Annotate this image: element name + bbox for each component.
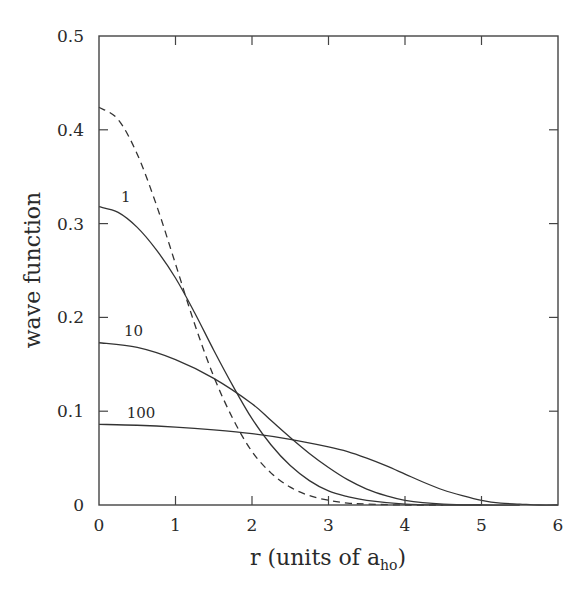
y-tick-labels: 00.10.20.30.40.5 — [57, 26, 84, 515]
y-tick-label: 0 — [73, 495, 84, 515]
x-tick-label: 0 — [94, 515, 105, 535]
x-tick-labels: 0123456 — [94, 515, 564, 535]
y-axis-title: wave function — [20, 192, 45, 348]
wave-function-chart: 0123456 00.10.20.30.40.5 110100 r (units… — [0, 0, 587, 601]
curve-label-10: 10 — [124, 322, 143, 340]
curve-1 — [99, 207, 482, 505]
curves-layer — [99, 107, 558, 505]
curve-100 — [99, 424, 558, 505]
plot-frame — [99, 36, 558, 505]
y-tick-label: 0.5 — [57, 26, 84, 46]
ticks-layer — [99, 36, 558, 505]
curve-label-100: 100 — [127, 404, 156, 422]
x-tick-label: 1 — [170, 515, 181, 535]
x-tick-label: 3 — [323, 515, 334, 535]
curve-label-1: 1 — [121, 188, 131, 206]
y-tick-label: 0.2 — [57, 307, 84, 327]
x-axis-title: r (units of aho) — [250, 545, 406, 573]
y-tick-label: 0.1 — [57, 401, 84, 421]
x-tick-label: 2 — [247, 515, 258, 535]
x-tick-label: 4 — [400, 515, 411, 535]
x-tick-label: 6 — [553, 515, 564, 535]
x-tick-label: 5 — [476, 515, 487, 535]
y-tick-label: 0.3 — [57, 214, 84, 234]
curve-labels: 110100 — [121, 188, 155, 422]
y-tick-label: 0.4 — [57, 120, 84, 140]
